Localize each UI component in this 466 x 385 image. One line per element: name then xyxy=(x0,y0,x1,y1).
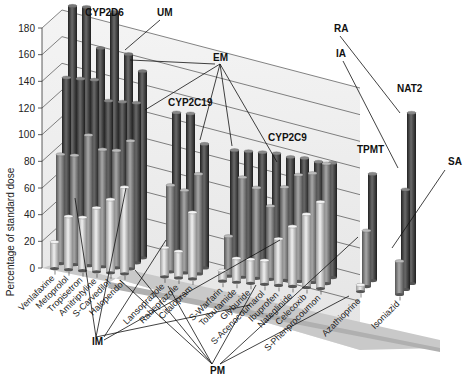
y-tick-label: 100 xyxy=(18,129,35,140)
y-tick-label: 40 xyxy=(24,209,36,220)
bar-pm-s-carvedilol xyxy=(106,198,115,275)
y-tick-label: 20 xyxy=(24,236,36,247)
bar-pm-venlafaxine xyxy=(50,240,59,270)
y-tick-label: 60 xyxy=(24,183,36,194)
y-axis-label: Percentage of standard dose xyxy=(5,167,16,296)
annotation-sa: SA xyxy=(448,156,462,167)
pharmacogenetic-dose-chart: 020406080100120140160180 VenlafaxineMeto… xyxy=(0,0,466,385)
group-label-tpmt: TPMT xyxy=(357,144,384,155)
bar-pm-nateglinide xyxy=(288,225,297,288)
group-label-cyp2c9: CYP2C9 xyxy=(268,132,307,143)
bar-sa-isoniazid xyxy=(395,260,404,297)
group-label-nat2: NAT2 xyxy=(397,83,423,94)
bar-pm-lansoprazole xyxy=(160,246,169,279)
y-tick-label: 160 xyxy=(18,49,35,60)
bar-pm-glyburide xyxy=(246,258,255,285)
bar-pm-s-acenocoumarol xyxy=(260,259,269,286)
bar-im-azathioprine xyxy=(362,229,371,288)
bar-pm-rabeprazole xyxy=(174,250,183,280)
bar-pm-celecoxib xyxy=(302,213,311,290)
bar-pm-amitriptyline xyxy=(92,206,101,273)
y-tick-label: 0 xyxy=(29,263,35,274)
annotation-im: IM xyxy=(92,336,103,347)
bar-pm-ibuprofen xyxy=(274,237,283,287)
y-axis: 020406080100120140160180 xyxy=(18,23,42,274)
annotation-ia: IA xyxy=(336,48,346,59)
group-label-cyp2d6: CYP2D6 xyxy=(85,7,124,18)
y-tick-label: 180 xyxy=(18,23,35,34)
y-tick-label: 80 xyxy=(24,156,36,167)
annotation-em: EM xyxy=(213,52,228,63)
annotation-ra: RA xyxy=(334,23,348,34)
bar-pm-tolbutamide xyxy=(232,257,241,284)
bar-pm-haloperidol xyxy=(120,186,129,276)
bar-pm-metoprolol xyxy=(64,215,73,272)
bar-pm-s-phenprocoumon xyxy=(316,200,325,290)
annotation-um: UM xyxy=(157,7,173,18)
group-label-cyp2c19: CYP2C19 xyxy=(168,97,213,108)
y-tick-label: 140 xyxy=(18,76,35,87)
x-tick-label: Isoniazid xyxy=(369,299,401,331)
y-tick-label: 120 xyxy=(18,103,35,114)
annotation-pm: PM xyxy=(210,365,225,376)
bar-pm-azathioprine xyxy=(356,283,365,293)
bar-pm-citalopram xyxy=(188,211,197,281)
